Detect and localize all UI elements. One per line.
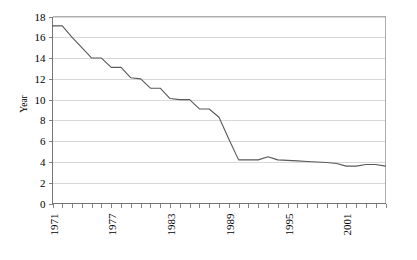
- y-tick-label-18: 18: [35, 11, 47, 23]
- x-tick-label-1971: 1971: [48, 214, 60, 236]
- x-tick-label-2001: 2001: [341, 214, 353, 236]
- y-tick-label-12: 12: [35, 73, 46, 85]
- chart-background: [0, 0, 417, 260]
- x-tick-label-1995: 1995: [283, 213, 295, 236]
- y-tick-label-10: 10: [35, 94, 47, 106]
- y-axis-title: Year: [19, 94, 29, 112]
- chart-container: 024681012141618 197119771983198919952001…: [0, 0, 417, 260]
- y-tick-label-8: 8: [40, 114, 46, 126]
- y-tick-label-6: 6: [40, 135, 46, 147]
- x-tick-label-1983: 1983: [165, 213, 177, 236]
- line-chart: 024681012141618 197119771983198919952001…: [0, 0, 417, 260]
- x-tick-label-1989: 1989: [224, 213, 236, 236]
- y-tick-label-0: 0: [40, 198, 46, 210]
- y-tick-label-2: 2: [40, 177, 46, 189]
- y-axis-title-text: Year: [19, 94, 29, 112]
- y-tick-label-4: 4: [40, 156, 46, 168]
- y-tick-label-14: 14: [35, 52, 47, 64]
- y-tick-label-16: 16: [35, 31, 47, 43]
- x-tick-label-1977: 1977: [106, 213, 118, 236]
